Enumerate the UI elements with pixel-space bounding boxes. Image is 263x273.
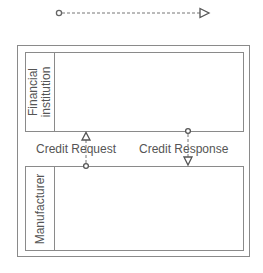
- message-label-credit-request: Credit Request: [36, 142, 116, 156]
- lane-label-manufacturer: Manufacturer: [34, 173, 47, 244]
- lane-label-line-2: institution: [40, 67, 53, 118]
- lane-financial-institution[interactable]: Financial institution: [25, 52, 244, 132]
- lane-header-financial-institution: Financial institution: [26, 53, 55, 131]
- lane-manufacturer[interactable]: Manufacturer: [25, 166, 244, 251]
- legend-arrow-head-icon: [200, 9, 209, 18]
- legend-message-flow: [56, 9, 209, 18]
- lane-label-line-1: Manufacturer: [34, 173, 47, 244]
- lane-label-financial-institution: Financial institution: [27, 67, 53, 118]
- message-label-credit-response: Credit Response: [139, 142, 228, 156]
- lane-header-manufacturer: Manufacturer: [26, 167, 55, 250]
- legend-start-circle-icon: [56, 10, 61, 15]
